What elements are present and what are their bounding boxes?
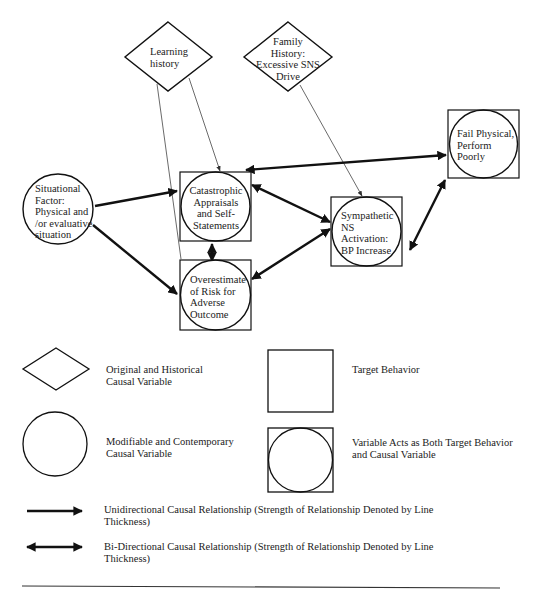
legend-circle-label: Modifiable and Contemporary Causal Varia… <box>106 436 234 460</box>
label-line: Family <box>250 36 326 48</box>
label-line: Learning <box>150 46 188 58</box>
edge-situational-to-overestimate <box>93 225 177 294</box>
legend-line: Bi-Directional Causal Relationship (Stre… <box>104 541 434 553</box>
node-catastrophic-label: Catastrophic Appraisals and Self- Statem… <box>183 185 249 231</box>
label-line: Catastrophic <box>183 185 249 197</box>
label-line: Situational <box>35 183 92 195</box>
node-sympathetic-label: Sympathetic NS Activation: BP Increase <box>341 210 394 256</box>
legend-circle-in-square-icon <box>268 428 333 492</box>
node-overestimate-label: Overestimate of Risk for Adverse Outcome <box>190 274 246 320</box>
legend-line: Target Behavior <box>352 364 420 376</box>
label-line: Outcome <box>190 309 246 321</box>
label-line: Overestimate <box>190 274 246 286</box>
label-line: and Self- <box>183 208 249 220</box>
label-line: Drive <box>250 71 326 83</box>
label-line: Factor: <box>35 195 92 207</box>
label-line: Sympathetic <box>341 210 394 222</box>
legend-line: Modifiable and Contemporary <box>106 436 234 448</box>
node-learning-history-label: Learning history <box>150 46 188 69</box>
legend-line: Thickness) <box>104 516 434 528</box>
legend-diamond-icon <box>23 348 89 390</box>
legend-diamond-label: Original and Historical Causal Variable <box>106 364 203 388</box>
label-line: Poorly <box>457 151 514 163</box>
edge-catastrophic-sympathetic <box>252 185 330 222</box>
edge-situational-to-catastrophic <box>95 191 177 206</box>
legend-square-icon <box>268 350 333 412</box>
label-line: Adverse <box>190 297 246 309</box>
label-line: Excessive SNS <box>250 59 326 71</box>
legend-line: Causal Variable <box>106 376 203 388</box>
edge-overestimate-sympathetic <box>252 229 330 279</box>
node-situational-label: Situational Factor: Physical and /or eva… <box>35 183 92 241</box>
edge-sympathetic-failphysical <box>410 180 445 250</box>
label-line: of Risk for <box>190 286 246 298</box>
label-line: Physical and <box>35 206 92 218</box>
label-line: History: <box>250 48 326 60</box>
label-line: BP Increase <box>341 245 394 257</box>
bottom-rule-divider <box>22 586 500 588</box>
label-line: Appraisals <box>183 197 249 209</box>
label-line: situation <box>35 229 92 241</box>
legend-circle-icon <box>23 412 87 476</box>
label-line: Statements <box>183 220 249 232</box>
legend-bidirectional-label: Bi-Directional Causal Relationship (Stre… <box>104 541 434 565</box>
label-line: history <box>150 58 188 70</box>
node-failphysical-label: Fail Physical, Perform Poorly <box>457 128 514 163</box>
label-line: NS <box>341 222 394 234</box>
legend-square-label: Target Behavior <box>352 364 420 376</box>
legend-line: Causal Variable <box>106 448 234 460</box>
legend-line: Variable Acts as Both Target Behavior <box>352 437 513 449</box>
edge-family-to-sympathetic <box>300 85 362 196</box>
legend-line: and Causal Variable <box>352 449 513 461</box>
edge-learning-to-overestimate <box>157 84 181 259</box>
legend-unidirectional-label: Unidirectional Causal Relationship (Stre… <box>104 504 434 528</box>
label-line: Activation: <box>341 233 394 245</box>
label-line: Perform <box>457 140 514 152</box>
legend-line: Original and Historical <box>106 364 203 376</box>
legend-line: Thickness) <box>104 553 434 565</box>
legend-line: Unidirectional Causal Relationship (Stre… <box>104 504 434 516</box>
diagram-canvas <box>0 0 541 590</box>
legend-circle-in-square-label: Variable Acts as Both Target Behavior an… <box>352 437 513 461</box>
node-family-history-label: Family History: Excessive SNS Drive <box>250 36 326 82</box>
edge-learning-to-catastrophic <box>189 78 220 171</box>
label-line: /or evaluative <box>35 218 92 230</box>
label-line: Fail Physical, <box>457 128 514 140</box>
